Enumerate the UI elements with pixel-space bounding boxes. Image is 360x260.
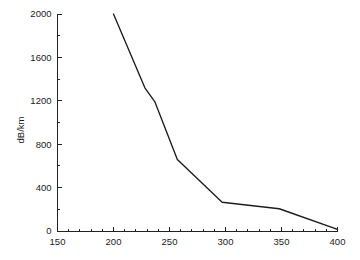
x-tick-label: 350 xyxy=(274,236,290,247)
x-tick-label: 400 xyxy=(330,236,346,247)
chart-figure: 150200250300350400 0400800120016002000 d… xyxy=(0,0,360,260)
y-tick-label: 800 xyxy=(36,139,52,150)
y-axis-title: dB/km xyxy=(15,116,26,143)
y-tick-label: 0 xyxy=(46,225,51,236)
x-tick-label: 300 xyxy=(218,236,234,247)
x-tick-label: 250 xyxy=(162,236,178,247)
x-tick-label: 200 xyxy=(106,236,122,247)
y-tick-label: 400 xyxy=(36,182,52,193)
line-chart: 150200250300350400 0400800120016002000 d… xyxy=(0,0,360,260)
y-tick-label: 1200 xyxy=(30,95,51,106)
chart-background xyxy=(0,0,360,260)
y-tick-label: 2000 xyxy=(30,8,51,19)
y-tick-label: 1600 xyxy=(30,52,51,63)
x-tick-label: 150 xyxy=(50,236,66,247)
